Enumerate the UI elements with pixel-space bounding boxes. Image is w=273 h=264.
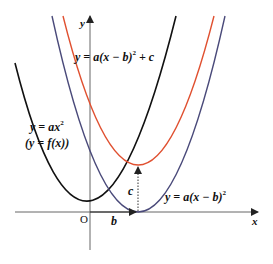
- vertical-shift-label: c: [128, 185, 133, 197]
- x-axis-label: x: [252, 216, 258, 227]
- label-base-text: y = ax: [30, 120, 60, 134]
- y-axis-label: y: [80, 18, 85, 29]
- label-shifted-up-text: y = a(x − b): [75, 50, 132, 64]
- label-shifted-up-exponent: 2: [132, 49, 136, 57]
- curve-base-parabola: [15, 16, 176, 201]
- label-shifted-up-constant: + c: [136, 50, 154, 64]
- label-base-curve: y = ax2: [30, 121, 64, 133]
- origin-label: O: [80, 214, 88, 225]
- label-shifted-text: y = a(x − b): [165, 190, 222, 204]
- curve-shifted-up-parabola: [63, 16, 214, 165]
- label-shifted-curve: y = a(x − b)2: [165, 191, 226, 203]
- label-shifted-up-curve: y = a(x − b)2 + c: [75, 51, 154, 63]
- label-base-exponent: 2: [60, 119, 64, 127]
- label-base-function: (y = f(x)): [25, 137, 69, 149]
- parabola-diagram: y x O y = a(x − b)2 + c y = ax2 (y = f(x…: [0, 0, 273, 264]
- label-shifted-exponent: 2: [222, 189, 226, 197]
- horizontal-shift-label: b: [111, 215, 117, 227]
